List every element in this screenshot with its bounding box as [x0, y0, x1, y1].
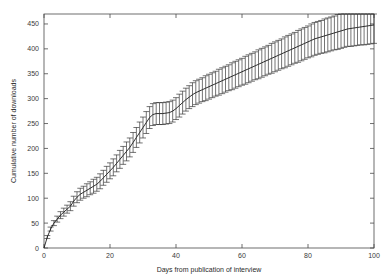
error-bars — [44, 14, 377, 239]
x-tick-label: 0 — [42, 252, 46, 259]
figure-container: 020406080100 050100150200250300350400450… — [0, 0, 387, 280]
y-tick-label: 400 — [27, 45, 39, 52]
y-tick-label: 300 — [27, 95, 39, 102]
x-tick-label: 40 — [172, 252, 180, 259]
y-axis-ticks — [44, 24, 374, 248]
x-tick-label: 60 — [238, 252, 246, 259]
y-tick-label: 150 — [27, 170, 39, 177]
x-tick-label: 100 — [368, 252, 380, 259]
x-tick-label: 80 — [304, 252, 312, 259]
downloads-cumulative-chart: 020406080100 050100150200250300350400450… — [0, 0, 387, 280]
y-tick-label: 450 — [27, 20, 39, 27]
x-tick-label: 20 — [106, 252, 114, 259]
y-axis-title: Cumulative number of downloads — [10, 79, 17, 183]
y-tick-label: 0 — [35, 245, 39, 252]
x-axis-tick-labels: 020406080100 — [42, 252, 380, 259]
y-tick-label: 200 — [27, 145, 39, 152]
y-tick-label: 350 — [27, 70, 39, 77]
x-axis-title: Days from publication of interview — [157, 266, 263, 274]
y-tick-label: 250 — [27, 120, 39, 127]
y-axis-tick-labels: 050100150200250300350400450 — [27, 20, 39, 251]
y-tick-label: 100 — [27, 195, 39, 202]
cumulative-downloads-line — [44, 25, 374, 248]
figure-caption-clipped — [150, 0, 387, 4]
y-tick-label: 50 — [31, 220, 39, 227]
